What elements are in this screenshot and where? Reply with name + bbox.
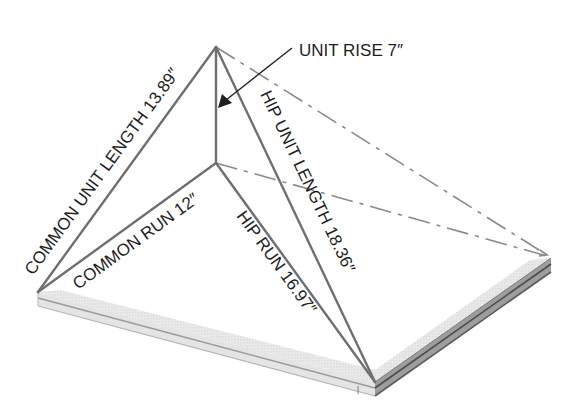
hip-roof-diagram: UNIT RISE 7″ COMMON UNIT LENGTH 13.89″ C… <box>0 0 573 420</box>
plate-top-left <box>38 290 375 382</box>
unit-rise-label: UNIT RISE 7″ <box>299 41 403 60</box>
plate-side-right <box>375 258 551 396</box>
hip-run-label: HIP RUN 16.97″ <box>233 207 321 318</box>
plate-side-left <box>38 292 375 396</box>
unit-rise-leader <box>218 48 292 108</box>
